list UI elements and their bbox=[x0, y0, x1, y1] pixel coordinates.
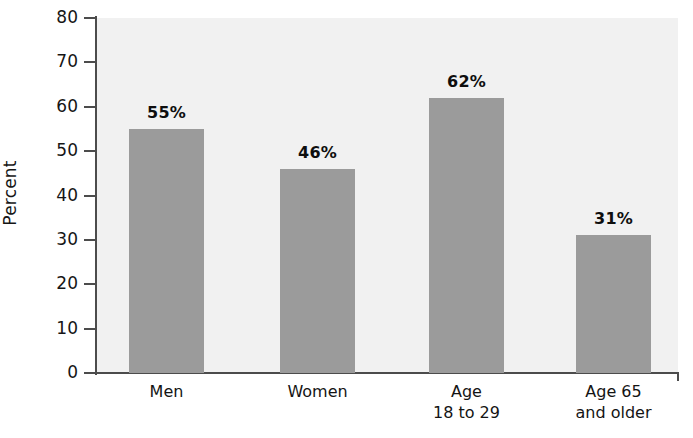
x-axis-category-label: Age 65and older bbox=[536, 381, 691, 423]
y-axis-tick bbox=[84, 61, 96, 63]
y-axis-tick-label: 0 bbox=[26, 364, 78, 381]
bar bbox=[576, 235, 651, 373]
category-label-line-1: Women bbox=[287, 382, 347, 401]
y-axis-tick-label: 20 bbox=[26, 275, 78, 292]
x-axis-category-label: Women bbox=[240, 381, 395, 402]
bar-chart: Percent 80706050403020100 55%46%62%31% M… bbox=[0, 0, 693, 438]
y-axis-tick bbox=[84, 17, 96, 19]
y-axis-tick-label: 40 bbox=[26, 187, 78, 204]
y-axis-tick-label: 30 bbox=[26, 231, 78, 248]
y-axis-tick bbox=[84, 283, 96, 285]
category-label-line-1: Age 65 bbox=[585, 382, 641, 401]
category-label-line-2: 18 to 29 bbox=[389, 402, 544, 423]
x-axis-category-label: Men bbox=[89, 381, 244, 402]
y-axis-tick bbox=[84, 372, 96, 374]
x-axis-end-cap bbox=[677, 372, 679, 381]
x-axis-category-label: Age18 to 29 bbox=[389, 381, 544, 423]
bar bbox=[129, 129, 204, 373]
category-label-line-1: Men bbox=[150, 382, 184, 401]
y-axis-tick bbox=[84, 328, 96, 330]
y-axis-tick bbox=[84, 150, 96, 152]
bar bbox=[280, 169, 355, 373]
y-axis-tick-label: 10 bbox=[26, 320, 78, 337]
category-label-line-1: Age bbox=[451, 382, 482, 401]
category-label-line-2: and older bbox=[536, 402, 691, 423]
y-axis-title: Percent bbox=[0, 133, 22, 253]
bar-value-label: 31% bbox=[561, 211, 666, 227]
y-axis-tick-label: 60 bbox=[26, 98, 78, 115]
bar-value-label: 62% bbox=[414, 74, 519, 90]
y-axis-tick bbox=[84, 106, 96, 108]
y-axis-tick bbox=[84, 239, 96, 241]
bar-value-label: 55% bbox=[114, 105, 219, 121]
y-axis-tick bbox=[84, 195, 96, 197]
y-axis-tick-label: 50 bbox=[26, 142, 78, 159]
bar-value-label: 46% bbox=[265, 145, 370, 161]
y-axis-tick-label: 80 bbox=[26, 9, 78, 26]
bar bbox=[429, 98, 504, 373]
y-axis-tick-label: 70 bbox=[26, 53, 78, 70]
